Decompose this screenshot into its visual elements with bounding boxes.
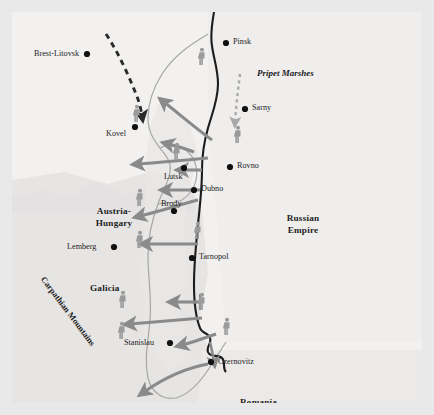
- map-graphics: [12, 12, 422, 403]
- city-dot-rovno: [227, 164, 233, 170]
- city-dot-stanislau: [167, 340, 173, 346]
- city-dot-brest-litovsk: [84, 51, 90, 57]
- city-dot-tarnopol: [189, 255, 195, 261]
- reserve-movement-arrow: [106, 34, 142, 116]
- city-dot-czernovitz: [208, 359, 214, 365]
- historical-map: Brest-Litovsk Kovel Pinsk Sarny Rovno Lu…: [0, 0, 434, 415]
- city-dot-brody: [171, 208, 177, 214]
- city-dot-dubno: [191, 187, 197, 193]
- city-dot-lutsk: [181, 165, 187, 171]
- map-canvas: Brest-Litovsk Kovel Pinsk Sarny Rovno Lu…: [12, 12, 422, 403]
- city-dot-kovel: [132, 124, 138, 130]
- city-dot-lemberg: [111, 244, 117, 250]
- city-dot-sarny: [242, 106, 248, 112]
- city-dot-pinsk: [223, 40, 229, 46]
